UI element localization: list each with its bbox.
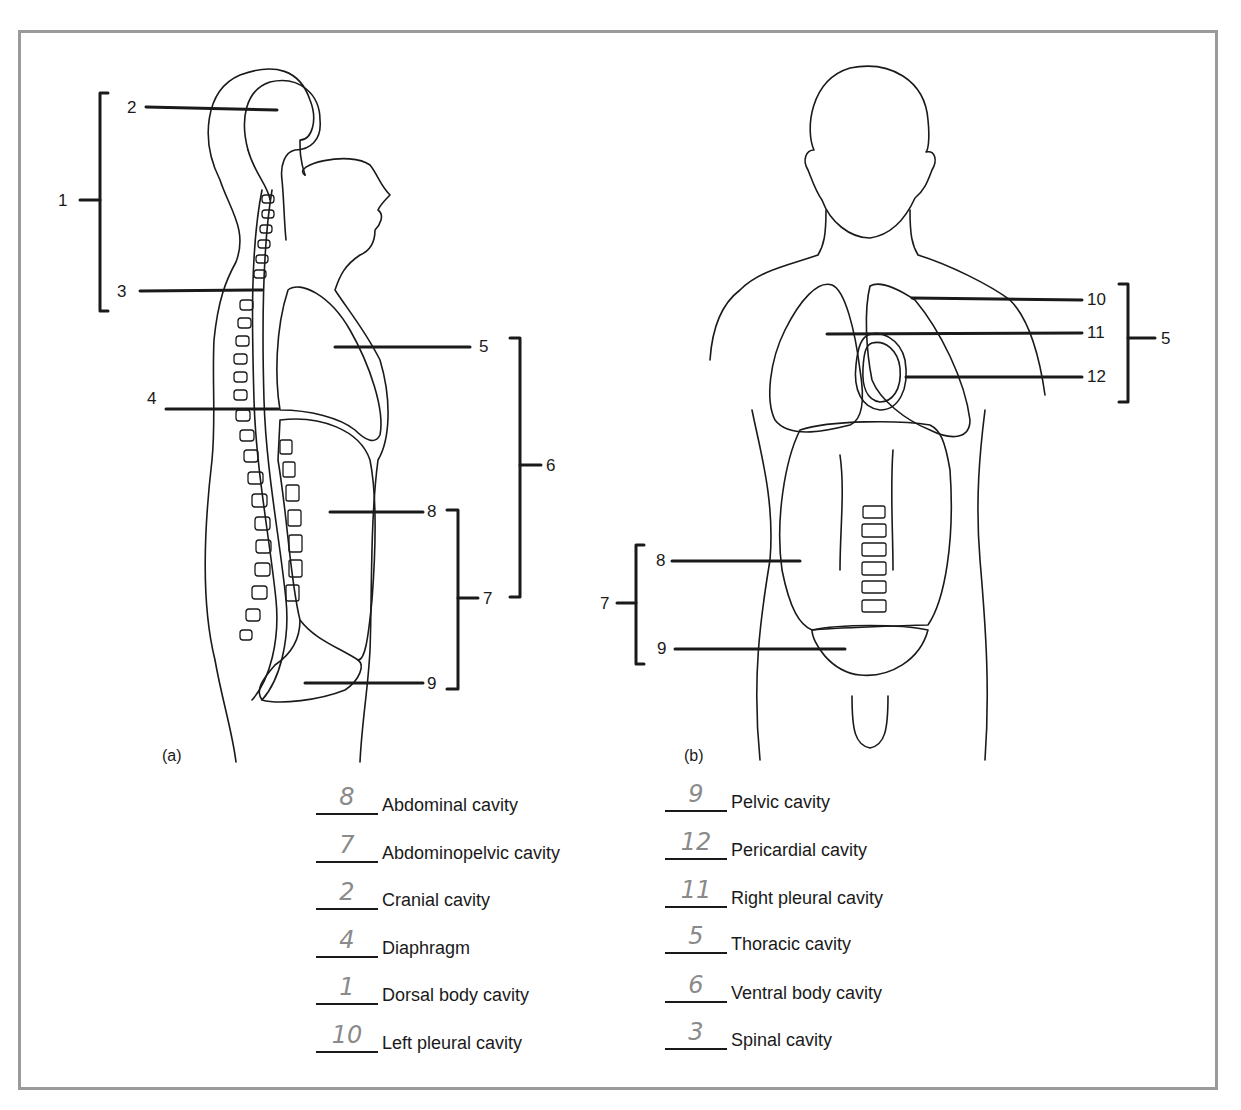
body-cavities-illustration <box>0 0 1241 1110</box>
answer-blank[interactable]: 9 <box>665 782 727 812</box>
callout-a-1: 1 <box>58 192 67 210</box>
callout-a-2: 2 <box>127 99 136 117</box>
handwritten-answer: 9 <box>665 780 727 808</box>
callout-b-12: 12 <box>1087 368 1106 386</box>
handwritten-answer: 4 <box>316 926 378 954</box>
key-row-right-pleural: 11 Right pleural cavity <box>665 878 883 908</box>
callout-b-10: 10 <box>1087 291 1106 309</box>
answer-blank[interactable]: 5 <box>665 924 727 954</box>
answer-blank[interactable]: 11 <box>665 878 727 908</box>
term-label: Abdominal cavity <box>382 796 518 815</box>
term-label: Pericardial cavity <box>731 841 867 860</box>
term-label: Right pleural cavity <box>731 889 883 908</box>
handwritten-answer: 11 <box>665 876 727 904</box>
answer-blank[interactable]: 6 <box>665 973 727 1003</box>
key-row-ventral: 6 Ventral body cavity <box>665 973 882 1003</box>
handwritten-answer: 10 <box>316 1021 378 1049</box>
callout-a-4: 4 <box>147 390 156 408</box>
callout-b-11: 11 <box>1087 324 1105 342</box>
answer-blank[interactable]: 8 <box>316 785 378 815</box>
callout-a-8: 8 <box>427 503 436 521</box>
callout-a-6: 6 <box>546 457 555 475</box>
key-row-abdominopelvic: 7 Abdominopelvic cavity <box>316 833 560 863</box>
term-label: Thoracic cavity <box>731 935 851 954</box>
term-label: Cranial cavity <box>382 891 490 910</box>
term-label: Spinal cavity <box>731 1031 832 1050</box>
answer-blank[interactable]: 1 <box>316 975 378 1005</box>
callout-b-9: 9 <box>657 640 666 658</box>
key-row-pelvic: 9 Pelvic cavity <box>665 782 830 812</box>
panel-a-label: (a) <box>162 747 182 765</box>
key-row-dorsal: 1 Dorsal body cavity <box>316 975 529 1005</box>
term-label: Diaphragm <box>382 939 470 958</box>
term-label: Pelvic cavity <box>731 793 830 812</box>
callout-b-7: 7 <box>600 595 609 613</box>
term-label: Left pleural cavity <box>382 1034 522 1053</box>
answer-blank[interactable]: 7 <box>316 833 378 863</box>
handwritten-answer: 1 <box>316 973 378 1001</box>
handwritten-answer: 5 <box>665 922 727 950</box>
key-row-left-pleural: 10 Left pleural cavity <box>316 1023 522 1053</box>
key-row-spinal: 3 Spinal cavity <box>665 1020 832 1050</box>
handwritten-answer: 12 <box>665 828 727 856</box>
handwritten-answer: 8 <box>316 783 378 811</box>
answer-blank[interactable]: 4 <box>316 928 378 958</box>
callout-a-9: 9 <box>427 675 436 693</box>
callout-a-5: 5 <box>479 338 488 356</box>
answer-blank[interactable]: 2 <box>316 880 378 910</box>
handwritten-answer: 7 <box>316 831 378 859</box>
callout-a-3: 3 <box>117 283 126 301</box>
answer-blank[interactable]: 10 <box>316 1023 378 1053</box>
panel-b-label: (b) <box>684 747 704 765</box>
key-row-diaphragm: 4 Diaphragm <box>316 928 470 958</box>
handwritten-answer: 2 <box>316 878 378 906</box>
term-label: Abdominopelvic cavity <box>382 844 560 863</box>
term-label: Dorsal body cavity <box>382 986 529 1005</box>
anterior-body-outline <box>710 66 1045 760</box>
answer-blank[interactable]: 12 <box>665 830 727 860</box>
sagittal-body-outline <box>205 69 390 762</box>
handwritten-answer: 3 <box>665 1018 727 1046</box>
lumbar-vertebrae <box>862 506 886 612</box>
callout-a-7: 7 <box>483 590 492 608</box>
answer-blank[interactable]: 3 <box>665 1020 727 1050</box>
key-row-pericardial: 12 Pericardial cavity <box>665 830 867 860</box>
key-row-thoracic: 5 Thoracic cavity <box>665 924 851 954</box>
callout-b-8: 8 <box>656 552 665 570</box>
key-row-abdominal: 8 Abdominal cavity <box>316 785 518 815</box>
term-label: Ventral body cavity <box>731 984 882 1003</box>
key-row-cranial: 2 Cranial cavity <box>316 880 490 910</box>
callout-b-5: 5 <box>1161 330 1170 348</box>
handwritten-answer: 6 <box>665 971 727 999</box>
